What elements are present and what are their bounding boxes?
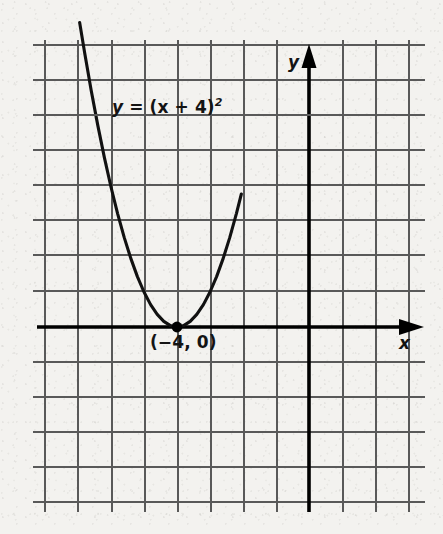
- horizontal-grid-lines: [33, 45, 425, 502]
- equation-equals: =: [123, 97, 149, 117]
- x-axis-label: x: [399, 333, 410, 353]
- vertex-point-marker: [172, 322, 183, 333]
- equation-rhs: (x + 4): [150, 97, 215, 117]
- equation-exponent: 2: [215, 96, 223, 109]
- y-axis-label: y: [288, 52, 299, 72]
- equation-label: y = (x + 4)2: [112, 96, 222, 117]
- vertical-grid-lines: [45, 40, 409, 512]
- coordinate-plane-svg: [0, 0, 443, 534]
- parabola-curve: [80, 23, 242, 328]
- parabola-graph-figure: y = (x + 4)2 (−4, 0) y x: [0, 0, 443, 534]
- equation-lhs: y: [112, 97, 123, 117]
- vertex-coordinate-label: (−4, 0): [150, 332, 217, 352]
- y-axis-arrowhead: [302, 44, 317, 68]
